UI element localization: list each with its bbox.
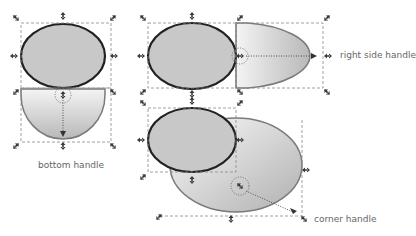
drag-arrowhead [311,53,317,59]
handle-left [137,54,145,59]
handle-bottom [190,90,195,98]
handle-top-left [11,13,20,22]
handle-new-top-right [322,13,331,22]
right-handle-label: right side handle [340,50,416,60]
handle-left [137,138,145,143]
handle-new-bottom-right [322,87,331,96]
handle-top [61,12,66,20]
bottom-handle-label: bottom handle [38,160,104,170]
handle-top [190,12,195,20]
handle-bottom-left [11,87,20,96]
handle-bottom-right [235,87,244,96]
handle-top-right [108,13,117,22]
handle-bottom-left [138,172,147,181]
handle-top [190,97,195,105]
handle-new-bottom [61,142,66,150]
handle-new-right [302,168,310,173]
handle-left [10,54,18,59]
handle-new-bottom-left [11,141,20,150]
handle-bottom-right [108,87,117,96]
handle-top-right [235,13,244,22]
original-ellipse [148,108,236,172]
bottom-handle-example [10,12,118,151]
handle-top-right [235,98,244,107]
handle-top-left [138,13,147,22]
right-handle-example [137,12,332,98]
drag-arrowhead [290,208,297,214]
corner-handle-label: corner handle [314,214,376,224]
handle-new-right [324,54,332,59]
original-ellipse [21,24,105,88]
handle-new-bottom-right [108,141,117,150]
original-ellipse [148,23,236,89]
stretched-ghost-ellipse [236,23,310,88]
corner-handle-example [137,97,310,224]
handle-new-bottom-left [154,212,163,221]
handle-bottom-left [138,87,147,96]
handle-top-left [138,98,147,107]
